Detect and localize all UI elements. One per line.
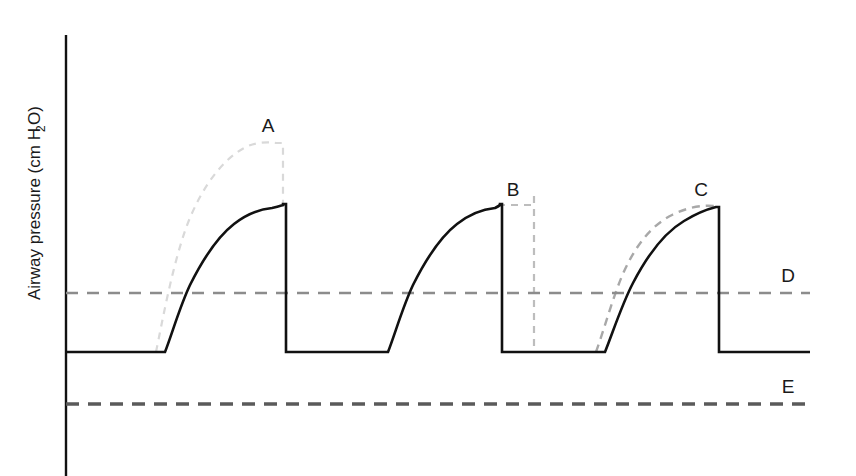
annotation-label-c: C xyxy=(694,179,708,200)
chart-page: Airway pressure (cm H 2 O) A B C D E xyxy=(0,0,856,476)
annotation-label-b: B xyxy=(507,179,520,200)
y-axis-label-main: Airway pressure (cm H xyxy=(25,128,44,300)
annotation-label-d: D xyxy=(781,265,795,286)
y-axis-label-subscript: 2 xyxy=(34,125,48,132)
y-axis-label-tail: O) xyxy=(25,106,44,125)
annotation-label-a: A xyxy=(262,115,275,136)
airway-pressure-chart: Airway pressure (cm H 2 O) A B C D E xyxy=(0,0,856,476)
annotation-label-e: E xyxy=(782,376,795,397)
